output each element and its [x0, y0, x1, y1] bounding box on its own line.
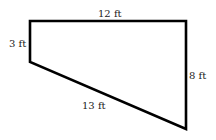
trapezoid-shape	[30, 21, 186, 129]
label-bottom-side: 13 ft	[82, 100, 106, 111]
label-right-side: 8 ft	[189, 70, 206, 81]
label-top-side: 12 ft	[98, 8, 122, 19]
trapezoid-diagram: 12 ft 3 ft 8 ft 13 ft	[0, 0, 216, 140]
label-left-side: 3 ft	[9, 38, 26, 49]
